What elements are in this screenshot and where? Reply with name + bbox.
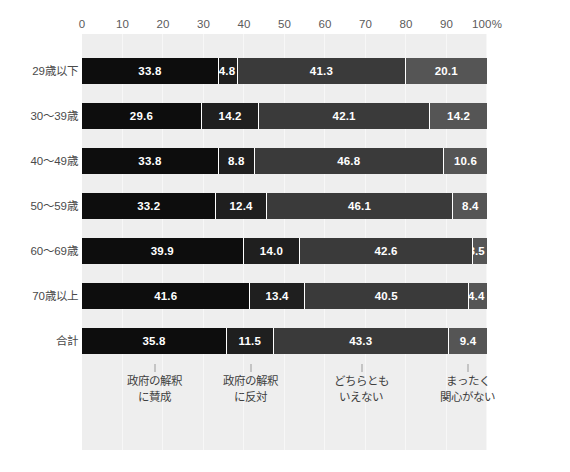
row-category-label: 40〜49歳 [30,148,78,174]
bar-segment-value: 29.6 [130,110,153,122]
bar-segment-value: 42.6 [374,245,397,257]
stacked-bar: 39.914.042.63.5 [82,238,487,264]
bar-segment: 14.0 [244,238,301,264]
row-category-label: 70歳以上 [32,283,78,309]
bar-segment: 10.6 [444,148,487,174]
x-axis-tick-label: 100% [472,18,502,30]
stacked-bar: 33.88.846.810.6 [82,148,487,174]
x-axis-tick-label: 90 [440,18,453,30]
bar-segment: 39.9 [82,238,244,264]
row-category-label: 合計 [56,328,78,354]
bar-segment: 13.4 [250,283,304,309]
x-axis-tick-labels: 0102030405060708090100% [0,18,570,34]
chart-row: 60〜69歳39.914.042.63.5 [0,238,570,264]
chart-row: 合計35.811.543.39.4 [0,328,570,354]
x-axis-tick-label: 70 [359,18,372,30]
bar-segment-value: 8.4 [462,200,479,212]
bar-segment: 40.5 [305,283,469,309]
chart-row: 70歳以上41.613.440.54.4 [0,283,570,309]
bar-segment-value: 41.6 [154,290,177,302]
bar-segment-value: 3.5 [473,245,485,257]
bar-segment-value: 43.3 [349,335,372,347]
x-axis-tick-label: 80 [399,18,412,30]
bar-segment: 11.5 [227,328,274,354]
legend-label-line1: どちらとも [334,373,389,389]
bar-segment: 8.8 [219,148,255,174]
stacked-bar: 35.811.543.39.4 [82,328,487,354]
x-axis-tick-label: 10 [116,18,129,30]
bar-segment: 14.2 [202,103,260,129]
bar-segment-value: 14.2 [447,110,470,122]
x-axis-tick-label: 50 [278,18,291,30]
bar-segment-value: 40.5 [375,290,398,302]
bar-segment: 42.1 [259,103,430,129]
legend-label-line2: に反対 [223,389,278,405]
chart-row: 29歳以下33.84.841.320.1 [0,58,570,84]
bar-segment: 14.2 [430,103,488,129]
legend-item: まったく関心がない [440,373,495,405]
chart-row: 50〜59歳33.212.446.18.4 [0,193,570,219]
bar-segment-value: 33.2 [137,200,160,212]
stacked-bar: 41.613.440.54.4 [82,283,487,309]
chart-legend: 政府の解釈に賛成政府の解釈に反対どちらともいえないまったく関心がない [82,373,487,419]
bar-segment-value: 39.9 [151,245,174,257]
bar-segment: 9.4 [449,328,487,354]
bar-segment: 46.8 [255,148,445,174]
bar-segment-value: 33.8 [138,65,161,77]
bar-segment: 3.5 [473,238,487,264]
bar-segment: 4.8 [219,58,238,84]
legend-tick-mark [468,364,469,372]
bar-segment: 33.2 [82,193,216,219]
stacked-bar-chart: 0102030405060708090100% 29歳以下33.84.841.3… [0,0,570,472]
x-axis-tick-label: 0 [79,18,86,30]
bar-segment: 46.1 [267,193,454,219]
chart-row: 30〜39歳29.614.242.114.2 [0,103,570,129]
stacked-bar: 33.212.446.18.4 [82,193,487,219]
x-axis-tick-label: 60 [318,18,331,30]
bar-segment-value: 4.4 [469,290,485,302]
legend-tick-mark [154,364,155,372]
bar-segment: 29.6 [82,103,202,129]
bar-segment: 8.4 [453,193,487,219]
bar-segment: 12.4 [216,193,266,219]
legend-label-line2: に賛成 [127,389,182,405]
bar-segment-value: 11.5 [238,335,261,347]
legend-tick-mark [361,364,362,372]
bar-segment: 33.8 [82,148,219,174]
bar-segment: 35.8 [82,328,227,354]
legend-item: 政府の解釈に反対 [223,373,278,405]
legend-label-line1: まったく [440,373,495,389]
bar-segment: 41.6 [82,283,250,309]
legend-item: どちらともいえない [334,373,389,405]
x-axis-tick-label: 40 [237,18,250,30]
bar-segment: 42.6 [300,238,473,264]
stacked-bar: 29.614.242.114.2 [82,103,487,129]
bar-segment-value: 14.2 [219,110,242,122]
bar-segment-value: 8.8 [228,155,245,167]
legend-label-line1: 政府の解釈 [127,373,182,389]
bar-segment-value: 46.8 [337,155,360,167]
bar-segment: 43.3 [274,328,449,354]
stacked-bar: 33.84.841.320.1 [82,58,487,84]
legend-tick-mark [250,364,251,372]
legend-label-line2: 関心がない [440,389,495,405]
bar-segment-value: 10.6 [454,155,477,167]
bar-segment-value: 46.1 [348,200,371,212]
legend-label-line1: 政府の解釈 [223,373,278,389]
chart-row: 40〜49歳33.88.846.810.6 [0,148,570,174]
bar-segment-value: 42.1 [333,110,356,122]
bar-segment: 4.4 [469,283,487,309]
bar-segment-value: 33.8 [138,155,161,167]
row-category-label: 60〜69歳 [30,238,78,264]
x-axis-tick-label: 20 [156,18,169,30]
bar-segment: 41.3 [238,58,405,84]
bar-segment-value: 35.8 [142,335,165,347]
bar-segment-value: 14.0 [260,245,283,257]
legend-item: 政府の解釈に賛成 [127,373,182,405]
bar-segment: 33.8 [82,58,219,84]
bar-segment-value: 20.1 [435,65,458,77]
bar-segment-value: 41.3 [310,65,333,77]
bar-segment-value: 13.4 [266,290,289,302]
row-category-label: 30〜39歳 [30,103,78,129]
row-category-label: 29歳以下 [32,58,78,84]
